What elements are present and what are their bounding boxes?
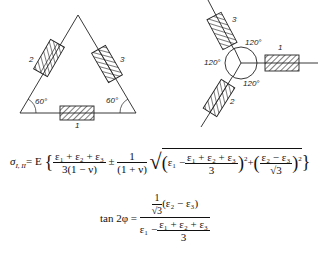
rosette-diagrams: 1 2 3 60° 60° 1 3	[0, 0, 326, 130]
principal-angle-formula: tan 2φ = 1√3(ε₂ − ε₃)ε₁ −ε₁ + ε₂ + ε₃3	[100, 192, 210, 243]
svg-text:2: 2	[28, 55, 34, 64]
svg-text:3: 3	[232, 15, 237, 24]
svg-text:1: 1	[75, 121, 79, 130]
angle-120-top: 120°	[245, 38, 262, 47]
principal-stress-formula: σI, II= E {ε₁ + ε₂ + ε₃3(1 − ν) ± 1(1 + …	[10, 148, 310, 176]
star-rosette: 1 3 2 120° 120° 120°	[201, 0, 318, 127]
gauge-3	[92, 45, 123, 82]
svg-text:2: 2	[229, 97, 235, 106]
angle-label-right: 60°	[106, 96, 119, 105]
gauge-1: 1	[265, 43, 299, 71]
svg-text:1: 1	[278, 43, 282, 52]
gauge-2	[34, 39, 65, 76]
delta-rosette: 1 2 3 60° 60°	[20, 15, 136, 130]
angle-label-left: 60°	[35, 97, 48, 106]
gauge-1: 1	[60, 106, 94, 130]
svg-text:3: 3	[120, 55, 125, 64]
angle-120-left: 120°	[204, 58, 221, 67]
angle-120-bottom: 120°	[243, 79, 260, 88]
